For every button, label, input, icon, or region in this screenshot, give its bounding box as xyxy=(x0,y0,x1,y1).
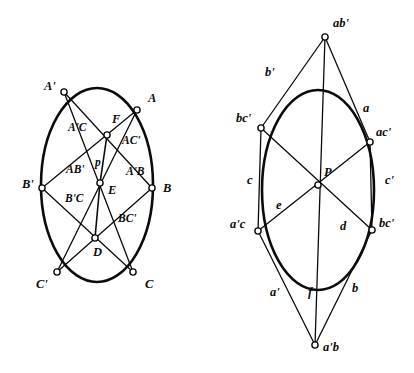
label-tangent-b-prime: b' xyxy=(265,65,275,79)
vertex-acprime xyxy=(367,139,373,145)
vertex-bcprime_l xyxy=(369,227,375,233)
label-bcprime_l: bc' xyxy=(379,216,395,230)
vertex-bcprime_u xyxy=(258,125,264,131)
label-tangent-a: a xyxy=(363,101,369,115)
label-Aprime: A' xyxy=(43,79,56,93)
figure-background xyxy=(0,0,414,373)
figure-canvas: A'AB'BC'CFEDA'CAC'AB'A'BB'CBC'p ab'bc'ac… xyxy=(0,0,414,373)
label-A-prime-B: A'B xyxy=(125,165,145,177)
vertex-aprimec xyxy=(255,228,261,234)
label-brianchon-point-P: P xyxy=(324,165,332,179)
vertex-Aprime xyxy=(61,89,67,95)
label-tangent-a-prime: a' xyxy=(270,285,280,299)
vertex-A xyxy=(134,107,140,113)
vertex-C xyxy=(130,269,136,275)
vertex-abprime xyxy=(322,34,328,40)
label-B-prime-C: B'C xyxy=(64,192,84,204)
brianchon-point-P xyxy=(315,182,321,188)
intersection-D xyxy=(92,235,98,241)
label-F: F xyxy=(111,112,121,126)
label-A-C-prime: AC' xyxy=(121,134,141,146)
label-D: D xyxy=(92,245,102,259)
label-A: A xyxy=(147,91,156,105)
vertex-B xyxy=(149,185,155,191)
label-tangent-d: d xyxy=(340,219,347,233)
vertex-Bprime xyxy=(39,185,45,191)
label-tangent-e: e xyxy=(276,198,282,212)
label-Bprime: B' xyxy=(21,177,34,191)
label-tangent-b: b xyxy=(352,281,358,295)
label-pascal-line-p: p xyxy=(94,156,101,169)
label-tangent-c-prime: c' xyxy=(385,173,395,187)
label-Cprime: C' xyxy=(36,277,48,291)
label-aprimeb: a'b xyxy=(323,340,339,354)
label-E: E xyxy=(107,183,116,197)
label-acprime: ac' xyxy=(376,125,392,139)
label-aprimec: a'c xyxy=(230,217,246,231)
label-C: C xyxy=(145,277,154,291)
label-B-C-prime: BC' xyxy=(117,212,137,224)
label-tangent-c: c xyxy=(247,173,253,187)
label-abprime: ab' xyxy=(333,16,350,30)
label-bcprime_u: bc' xyxy=(236,111,252,125)
label-A-prime-C: A'C xyxy=(67,121,87,133)
label-A-B-prime: AB' xyxy=(65,163,85,175)
label-B: B xyxy=(162,181,171,195)
geometry-figure: A'AB'BC'CFEDA'CAC'AB'A'BB'CBC'p ab'bc'ac… xyxy=(0,0,414,373)
intersection-E xyxy=(97,180,103,186)
vertex-aprimeb xyxy=(312,342,318,348)
vertex-Cprime xyxy=(54,269,60,275)
intersection-F xyxy=(104,132,110,138)
